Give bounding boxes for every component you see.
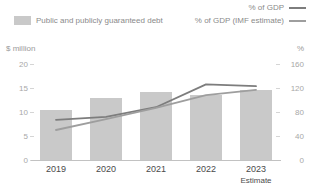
x-label-2021: 2021 (130, 164, 182, 174)
x-label-2019: 2019 (30, 164, 82, 174)
plot-area: 20151050 16012080400 (0, 58, 312, 164)
x-axis-labels: 20192020202120222023Estimate (0, 164, 312, 192)
chart-legend: Public and publicly guaranteed debt % of… (0, 0, 312, 32)
left-axis-title: $ million (6, 44, 35, 53)
x-sublabel-2023: Estimate (230, 176, 282, 185)
legend-line-label-gdp: % of GDP (248, 3, 284, 12)
x-label-2023: 2023 (230, 164, 282, 174)
legend-swatch-icon (14, 16, 31, 25)
legend-line-icon-gdp (289, 7, 306, 9)
chart-container: Public and publicly guaranteed debt % of… (0, 0, 312, 192)
legend-line-label-imf: % of GDP (IMF estimate) (195, 16, 284, 25)
legend-line-icon-imf (289, 20, 306, 22)
legend-item-bar: Public and publicly guaranteed debt (14, 16, 163, 25)
x-label-2022: 2022 (180, 164, 232, 174)
line-gdp-imf-estimate (56, 90, 256, 130)
legend-bar-label: Public and publicly guaranteed debt (36, 16, 163, 25)
line-series (0, 58, 312, 164)
x-label-2020: 2020 (80, 164, 132, 174)
line-gdp (56, 84, 256, 119)
legend-item-line-gdp: % of GDP (248, 3, 306, 12)
legend-item-line-imf: % of GDP (IMF estimate) (195, 16, 306, 25)
right-axis-title: % (297, 44, 304, 53)
